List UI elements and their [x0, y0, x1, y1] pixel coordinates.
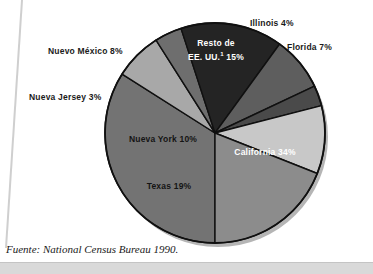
- slice-label-resto-value: 15%: [224, 52, 244, 62]
- slice-label-florida: Florida 7%: [287, 42, 332, 52]
- slice-label-resto-ee-uu: Resto de EE. UU.1 15%: [170, 38, 262, 63]
- chart-area: Illinois 4% Florida 7% Nuevo México 8% N…: [0, 0, 373, 250]
- slice-label-nuevo-mexico: Nuevo México 8%: [48, 46, 123, 56]
- slice-label-resto-line1: Resto de: [197, 38, 235, 48]
- slice-label-california: California 34%: [222, 147, 308, 157]
- slice-label-resto-line2: EE. UU.: [188, 52, 220, 62]
- page-bottom-band: [0, 262, 373, 274]
- slice-label-nueva-york: Nueva York 10%: [113, 134, 213, 144]
- slice-label-illinois: Illinois 4%: [250, 18, 294, 28]
- source-note: Fuente: National Census Bureau 1990.: [6, 243, 178, 255]
- slice-label-nueva-jersey: Nueva Jersey 3%: [29, 92, 101, 102]
- slice-label-texas: Texas 19%: [134, 181, 204, 191]
